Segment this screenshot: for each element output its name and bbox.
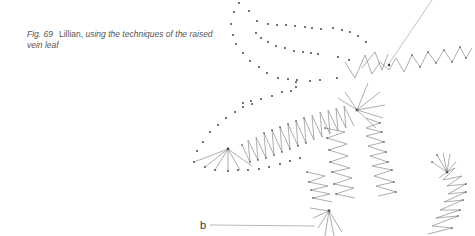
thread-lines xyxy=(194,47,472,236)
zigzag-edge-dots xyxy=(241,46,467,229)
label-b-leader-line xyxy=(210,225,315,226)
pricking-dots xyxy=(193,2,448,212)
thread-line xyxy=(388,0,432,65)
lace-pricking-diagram xyxy=(0,0,475,236)
